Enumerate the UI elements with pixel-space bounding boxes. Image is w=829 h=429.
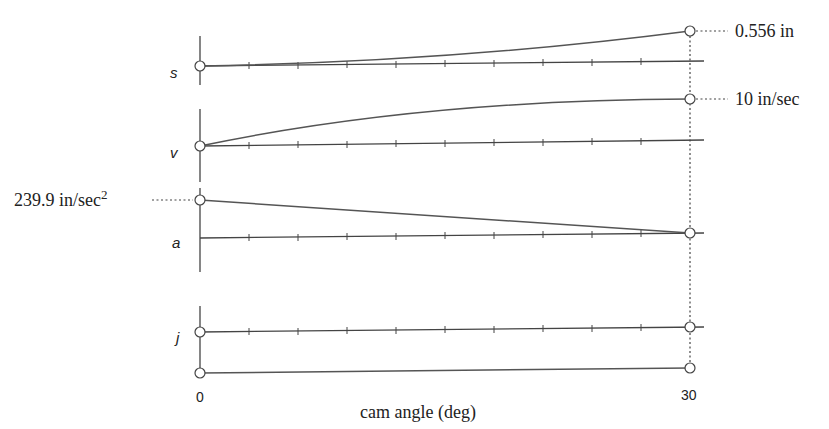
j-start-lower-marker (195, 368, 205, 378)
s-end-annotation: 0.556 in (735, 21, 794, 41)
j-end-upper-marker (685, 322, 695, 332)
x-end-label: 30 (681, 387, 697, 403)
v-axis-label: v (170, 144, 179, 161)
a-baseline (200, 233, 704, 238)
v-plot: 10 in/sec v (170, 89, 800, 182)
x-start-label: 0 (196, 389, 204, 405)
s-end-marker (685, 26, 695, 36)
j-baseline (200, 327, 704, 332)
v-baseline (200, 140, 704, 146)
a-end-marker (685, 228, 695, 238)
j-start-upper-marker (195, 327, 205, 337)
a-ticks (249, 230, 641, 241)
j-axis-label: j (174, 329, 180, 346)
a-axis-label: a (172, 234, 180, 251)
j-ticks (249, 324, 641, 335)
a-start-annotation: 239.9 in/sec2 (14, 187, 108, 210)
a-line (200, 200, 690, 233)
s-plot: 0.556 in s (170, 21, 794, 85)
s-start-marker (195, 61, 205, 71)
a-start-marker (195, 195, 205, 205)
v-start-marker (195, 141, 205, 151)
j-line (200, 368, 690, 373)
j-end-lower-marker (685, 363, 695, 373)
x-axis-title: cam angle (deg) (360, 402, 476, 423)
j-plot: j (174, 306, 704, 378)
v-end-marker (685, 94, 695, 104)
v-ticks (249, 138, 641, 149)
svaj-diagram: 0.556 in s 10 in/sec v (0, 0, 829, 429)
s-axis-label: s (170, 64, 178, 81)
v-end-annotation: 10 in/sec (735, 89, 800, 109)
a-plot: 239.9 in/sec2 a (14, 187, 704, 272)
v-curve (200, 99, 690, 146)
